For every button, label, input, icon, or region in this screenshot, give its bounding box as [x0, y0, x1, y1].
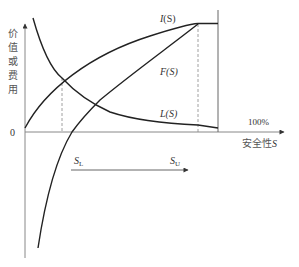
value-cost-safety-diagram: 0 价 值 或 费 用 I(S) F(S) L(S) 100% 安全性S SL …	[0, 0, 299, 267]
x-axis-label: 安全性S	[242, 137, 277, 149]
net-value-curve-label: F(S)	[159, 66, 178, 78]
y-axis-label-char: 价	[8, 28, 18, 39]
hundred-percent-label: 100%	[248, 117, 270, 127]
y-axis-label-char: 用	[8, 84, 18, 95]
loss-curve	[33, 18, 218, 128]
y-axis-label-char: 费	[8, 69, 18, 81]
y-axis-label-char: 值	[8, 41, 18, 53]
net-value-curve	[38, 24, 198, 248]
income-curve	[25, 24, 218, 129]
y-axis-label-char: 或	[8, 56, 18, 67]
origin-label: 0	[10, 127, 15, 138]
loss-curve-label: L(S)	[159, 108, 178, 120]
upper-bound-label: SU	[170, 155, 180, 168]
income-curve-label: I(S)	[159, 13, 176, 25]
lower-bound-label: SL	[74, 155, 83, 168]
